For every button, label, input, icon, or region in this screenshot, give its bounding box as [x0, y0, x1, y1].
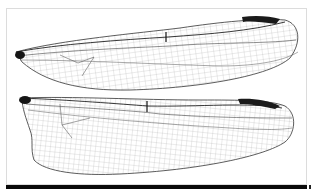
figure-canvas [0, 0, 312, 189]
forewing-base [15, 51, 25, 59]
caption-bar [6, 185, 307, 189]
hindwing [19, 96, 294, 174]
hindwing-base [19, 96, 31, 104]
wings-illustration [0, 0, 312, 189]
corner-mark [309, 185, 311, 189]
forewing [15, 16, 298, 90]
